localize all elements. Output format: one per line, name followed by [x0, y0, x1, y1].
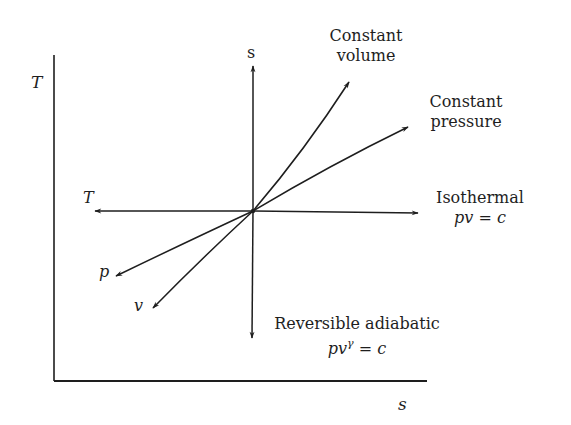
- reversible-adiabatic-equation: pvγ = c: [262, 334, 452, 359]
- origin-point: [251, 209, 255, 213]
- constant-pressure-label: Constant pressure: [416, 92, 516, 132]
- outer-y-axis-label: T: [31, 72, 42, 92]
- pressure-branch-curve: [116, 211, 253, 276]
- isothermal-eq-rhs: = c: [473, 208, 506, 227]
- adiabatic-eq-rhs: = c: [354, 339, 387, 358]
- isothermal-arrow: [253, 211, 418, 213]
- isothermal-equation: pv = c: [420, 208, 540, 228]
- isothermal-line1: Isothermal: [420, 188, 540, 208]
- constant-pressure-line: [253, 127, 408, 211]
- inner-temperature-label: T: [83, 188, 94, 208]
- constant-volume-line1: Constant: [316, 26, 416, 46]
- constant-pressure-line1: Constant: [416, 92, 516, 112]
- inner-entropy-label: s: [247, 43, 255, 63]
- outer-x-axis-label: s: [398, 394, 407, 414]
- process-arrows: [95, 66, 418, 338]
- isothermal-eq-pv: pv: [454, 208, 473, 227]
- pressure-branch-label: p: [99, 262, 109, 282]
- reversible-adiabatic-arrow: [252, 211, 253, 338]
- constant-volume-line2: volume: [316, 46, 416, 66]
- isothermal-label: Isothermal pv = c: [420, 188, 540, 228]
- reversible-adiabatic-line1: Reversible adiabatic: [262, 314, 452, 334]
- constant-volume-curve: [253, 82, 349, 211]
- adiabatic-eq-gamma: γ: [347, 337, 354, 350]
- reversible-adiabatic-label: Reversible adiabatic pvγ = c: [262, 314, 452, 359]
- constant-pressure-line2: pressure: [416, 112, 516, 132]
- adiabatic-eq-pv: pv: [328, 339, 347, 358]
- volume-branch-label: v: [134, 296, 143, 316]
- constant-volume-label: Constant volume: [316, 26, 416, 66]
- volume-branch-curve: [153, 211, 253, 308]
